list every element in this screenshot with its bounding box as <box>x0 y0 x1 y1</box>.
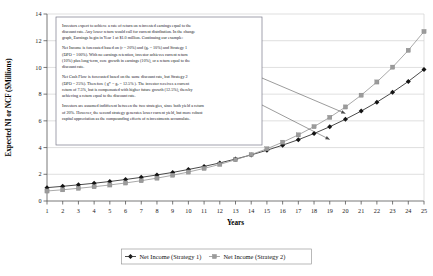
data-point <box>61 188 65 192</box>
x-tick-label: 14 <box>248 207 254 214</box>
annotation-leaders <box>262 78 345 140</box>
data-point <box>265 147 269 151</box>
data-point <box>327 124 332 129</box>
data-point <box>155 176 159 180</box>
data-point <box>139 179 143 183</box>
x-tick-label: 7 <box>140 207 143 214</box>
x-tick-label: 11 <box>201 207 207 214</box>
data-point <box>374 100 379 105</box>
x-tick-label: 22 <box>374 207 380 214</box>
x-tick-label: 19 <box>327 207 333 214</box>
data-point <box>343 105 347 109</box>
y-tick-label: 4 <box>38 144 41 151</box>
data-point <box>45 189 49 193</box>
data-point <box>186 170 190 174</box>
data-point <box>296 137 301 142</box>
x-tick-label: 18 <box>311 207 317 214</box>
data-point <box>375 80 379 84</box>
x-tick-label: 6 <box>124 207 127 214</box>
x-tick-label: 5 <box>108 207 111 214</box>
data-point <box>202 166 206 170</box>
data-point <box>249 153 253 157</box>
y-tick-label: 6 <box>38 117 41 124</box>
note-line: achieving a return equal to the discount… <box>62 93 136 98</box>
note-line: Net Income is forecasted based on (r = 2… <box>62 45 187 50</box>
x-tick-label: 16 <box>280 207 286 214</box>
data-point <box>406 48 410 52</box>
data-point <box>108 183 112 187</box>
chart-figure: 0246810121412345678910111213141516171819… <box>0 0 433 276</box>
data-point <box>171 173 175 177</box>
y-axis-title: Expected NI or NCF ($Millions) <box>5 58 13 157</box>
data-point <box>422 29 426 33</box>
data-point <box>281 140 285 144</box>
x-tick-label: 9 <box>171 207 174 214</box>
x-tick-label: 12 <box>217 207 223 214</box>
y-tick-label: 8 <box>38 90 41 97</box>
note-line: capital appreciation as the compounding … <box>62 116 190 121</box>
data-point <box>359 93 363 97</box>
x-tick-label: 8 <box>155 207 158 214</box>
data-point <box>390 65 394 69</box>
x-tick-label: 20 <box>342 207 348 214</box>
x-tick-label: 15 <box>264 207 270 214</box>
x-tick-label: 17 <box>295 207 301 214</box>
x-tick-label: 10 <box>185 207 191 214</box>
note-line: (DPO = 25%). Therefore ( g* = gₑ = 12.5%… <box>62 81 190 86</box>
data-point <box>296 133 300 137</box>
x-tick-label: 21 <box>358 207 364 214</box>
strategy-1-pointer <box>262 78 345 114</box>
data-point <box>218 162 222 166</box>
legend-label: Net Income (Strategy 1) <box>140 253 202 261</box>
x-tick-label: 23 <box>389 207 395 214</box>
data-point <box>123 181 127 185</box>
data-point <box>233 158 237 162</box>
data-point <box>76 186 80 190</box>
x-tick-label: 1 <box>45 207 48 214</box>
y-tick-label: 14 <box>35 10 41 17</box>
x-axis-title: Years <box>227 219 244 227</box>
data-point <box>359 109 364 114</box>
note-line: Investors expect to achieve a rate of re… <box>62 23 191 28</box>
y-tick-label: 0 <box>38 197 41 204</box>
x-tick-label: 24 <box>405 207 411 214</box>
data-point <box>92 185 96 189</box>
x-tick-label: 2 <box>61 207 64 214</box>
y-tick-label: 2 <box>38 170 41 177</box>
x-tick-label: 4 <box>93 207 96 214</box>
x-tick-label: 3 <box>77 207 80 214</box>
y-tick-label: 12 <box>35 37 41 44</box>
legend-label: Net Income (Strategy 2) <box>223 253 285 261</box>
expected-ni-ncf-chart: 0246810121412345678910111213141516171819… <box>0 0 433 276</box>
strategy-2-pointer <box>262 105 330 140</box>
note-line: discount rate. Any lower return would ca… <box>62 29 195 34</box>
y-tick-label: 10 <box>35 64 41 71</box>
note-line: discount rate. <box>62 64 84 69</box>
x-tick-label: 25 <box>421 207 427 214</box>
data-point <box>328 115 332 119</box>
data-point <box>312 125 316 129</box>
x-tick-label: 13 <box>232 207 238 214</box>
